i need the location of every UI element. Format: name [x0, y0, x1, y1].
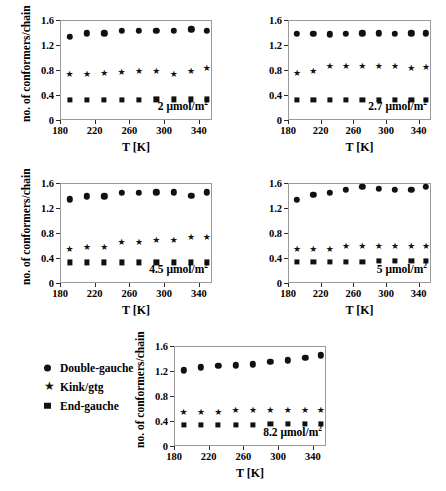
data-point-star: ★	[421, 62, 431, 71]
x-tick	[164, 283, 165, 287]
x-tick-label: 180	[52, 288, 68, 299]
legend-symbol-circle-icon	[44, 364, 51, 371]
data-point-star: ★	[374, 241, 384, 250]
data-point-square	[102, 260, 107, 265]
legend-label: End-gauche	[60, 400, 119, 412]
y-tick	[170, 371, 174, 372]
y-axis-title: no. of conformers/chain	[20, 5, 32, 122]
x-tick	[174, 446, 175, 450]
y-tick	[284, 183, 288, 184]
x-tick-label: 220	[87, 125, 103, 136]
x-tick-label: 300	[270, 451, 286, 462]
data-point-star: ★	[202, 232, 212, 241]
data-point-square	[181, 422, 186, 427]
data-point-star: ★	[300, 405, 310, 414]
panel-label: 5 μmol/m2	[377, 261, 427, 275]
x-tick-label: 260	[345, 125, 361, 136]
x-tick	[243, 446, 244, 450]
y-tick-label: 0.4	[252, 253, 282, 264]
y-tick-label: 0.4	[252, 90, 282, 101]
data-point-star: ★	[134, 66, 144, 75]
legend-symbol-square-icon	[44, 402, 51, 409]
x-tick	[129, 283, 130, 287]
x-tick	[321, 283, 322, 287]
legend-item: ★Kink/gtg	[44, 377, 160, 396]
data-point-star: ★	[179, 408, 189, 417]
x-tick	[419, 283, 420, 287]
data-point-star: ★	[390, 61, 400, 70]
x-tick-label: 180	[280, 288, 296, 299]
x-tick-label: 340	[411, 288, 427, 299]
x-tick-label: 180	[52, 125, 68, 136]
y-tick-label: 0.8	[252, 65, 282, 76]
x-tick	[288, 283, 289, 287]
data-point-square	[136, 97, 141, 102]
y-tick	[170, 396, 174, 397]
y-tick	[56, 208, 60, 209]
y-axis-title: no. of conformers/chain	[20, 168, 32, 285]
x-tick-label: 340	[411, 125, 427, 136]
data-point-star: ★	[390, 241, 400, 250]
y-tick-label: 0	[252, 115, 282, 126]
x-tick-label: 260	[122, 125, 138, 136]
data-point-square	[233, 422, 238, 427]
x-tick-label: 300	[378, 288, 394, 299]
x-tick	[321, 120, 322, 124]
y-tick	[170, 421, 174, 422]
data-point-star: ★	[357, 61, 367, 70]
data-point-square	[311, 97, 316, 102]
x-tick-label: 220	[313, 125, 329, 136]
y-tick	[56, 20, 60, 21]
data-point-star: ★	[421, 242, 431, 251]
y-tick	[56, 45, 60, 46]
data-point-square	[360, 259, 365, 264]
legend-label: Double-gauche	[60, 362, 133, 374]
y-tick	[284, 208, 288, 209]
data-point-square	[327, 97, 332, 102]
x-tick-label: 220	[87, 288, 103, 299]
x-tick	[419, 120, 420, 124]
x-tick	[95, 120, 96, 124]
x-tick-label: 180	[166, 451, 182, 462]
data-point-star: ★	[196, 408, 206, 417]
legend-item: Double-gauche	[44, 358, 160, 377]
x-axis-title: T [K]	[236, 466, 264, 481]
data-point-star: ★	[117, 238, 127, 247]
data-point-star: ★	[341, 61, 351, 70]
data-point-star: ★	[151, 235, 161, 244]
legend-symbol-star-icon: ★	[44, 380, 55, 392]
data-point-square	[343, 97, 348, 102]
data-point-square	[198, 422, 203, 427]
data-point-square	[84, 260, 89, 265]
data-point-star: ★	[265, 405, 275, 414]
x-tick-label: 220	[201, 451, 217, 462]
data-point-star: ★	[308, 67, 318, 76]
panel-label: 4.5 μmol/m2	[149, 261, 208, 275]
x-axis-title: T [K]	[122, 140, 150, 155]
data-point-square	[311, 259, 316, 264]
x-tick	[288, 120, 289, 124]
data-point-star: ★	[186, 232, 196, 241]
data-point-square	[136, 260, 141, 265]
data-point-square	[119, 260, 124, 265]
data-point-star: ★	[325, 244, 335, 253]
x-tick	[199, 283, 200, 287]
data-point-star: ★	[65, 69, 75, 78]
x-tick	[60, 283, 61, 287]
y-tick	[56, 95, 60, 96]
data-point-square	[294, 259, 299, 264]
x-tick-label: 300	[156, 288, 172, 299]
data-point-star: ★	[292, 68, 302, 77]
x-axis-title: T [K]	[122, 303, 150, 318]
y-tick	[56, 233, 60, 234]
y-tick	[170, 346, 174, 347]
y-tick-label: 1.2	[252, 203, 282, 214]
data-point-star: ★	[248, 405, 258, 414]
data-point-star: ★	[65, 245, 75, 254]
data-point-square	[327, 259, 332, 264]
data-point-star: ★	[406, 63, 416, 72]
x-tick-label: 220	[313, 288, 329, 299]
x-tick-label: 340	[191, 288, 207, 299]
data-point-star: ★	[82, 69, 92, 78]
data-point-square	[250, 422, 255, 427]
